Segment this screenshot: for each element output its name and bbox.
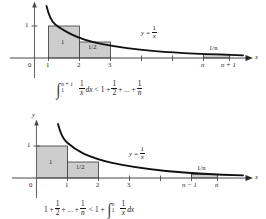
tick-label-origin-bottom: 0: [29, 182, 32, 189]
bar-label-1-n-bottom: 1/n: [197, 165, 205, 172]
integral-sign-bottom: ∫: [107, 204, 111, 216]
bar-label-1-top: 1: [61, 39, 64, 46]
tick-label-1-top: 1: [46, 62, 49, 69]
rhs-frac-den-top: 2: [111, 88, 117, 97]
x-axis-label-top: x: [255, 54, 258, 61]
equation-bottom: 1 +12+ ... +1n<1 +∫n11xdx: [44, 200, 134, 216]
bar-label-1-bottom: 1: [49, 159, 52, 166]
tick-label-origin-top: 0: [28, 62, 31, 69]
integral-lower-bottom: 1: [112, 207, 115, 213]
curve-label-top: y =1x: [141, 25, 158, 41]
rhs-last-den-top: n: [137, 88, 143, 97]
tick-label-n-plus-1-top: n + 1: [221, 62, 236, 69]
integrand-num-top: 1: [79, 80, 85, 88]
tick-label-1-bottom: 1: [65, 182, 68, 189]
relation-bottom: <: [89, 205, 93, 214]
curve-label-num-top: 1: [152, 25, 158, 32]
lhs-dots-bottom: + ... +: [61, 205, 79, 214]
y-axis-label-bottom: y: [32, 112, 35, 119]
tick-label-y1-bottom: 1: [27, 142, 30, 149]
relation-top: <: [95, 85, 99, 94]
tick-label-n-minus-1-bottom: n − 1: [182, 182, 197, 189]
tick-label-3-top: 3: [108, 62, 111, 69]
rhs-dots-top: + ... +: [118, 85, 136, 94]
bar-label-1-n-top: 1/n: [209, 45, 217, 52]
figure-panel-top: 0 1 2 3 n n + 1 1 x 1 1/2 1/n y =1x ∫n +…: [0, 0, 266, 106]
lhs-frac-num-bottom: 1: [55, 200, 61, 208]
curve-label-lhs-bottom: y =: [129, 150, 139, 158]
tick-label-2-bottom: 2: [96, 182, 99, 189]
equation-top: ∫n + 111xdx<1 +12+ ... +1n: [56, 80, 143, 96]
lhs-last-num-bottom: 1: [80, 200, 86, 208]
differential-bottom: dx: [127, 205, 134, 214]
bar-label-1-2-top: 1/2: [88, 44, 96, 51]
bar-label-1-2-bottom: 1/2: [76, 164, 84, 171]
integral-lower-top: 1: [61, 87, 73, 93]
tick-label-n-top: n: [201, 62, 204, 69]
curve-label-den-bottom: x: [140, 153, 146, 161]
y-axis-top: [32, 2, 38, 79]
x-axis-label-bottom: x: [255, 174, 258, 181]
tick-label-2-top: 2: [77, 62, 80, 69]
integral-sign-top: ∫: [57, 84, 61, 96]
lhs-frac-den-bottom: 2: [55, 208, 61, 217]
rhs-frac-num-top: 1: [111, 80, 117, 88]
curve-label-bottom: y =1x: [129, 146, 146, 162]
tick-label-3-bottom: 3: [127, 182, 130, 189]
integrand-den-bottom: x: [120, 208, 126, 217]
tick-label-y1-top: 1: [25, 22, 28, 29]
curve-label-num-bottom: 1: [140, 146, 146, 153]
curve-label-lhs-top: y =: [141, 29, 151, 37]
integrand-num-bottom: 1: [120, 200, 126, 208]
tick-label-n-bottom: n: [215, 182, 218, 189]
rhs-lead-bottom: 1 +: [95, 205, 105, 214]
lhs-first-bottom: 1 +: [44, 205, 54, 214]
lhs-last-den-bottom: n: [80, 208, 86, 217]
rhs-lead-top: 1 +: [101, 85, 111, 94]
figure-panel-bottom: y x 0 1 2 3 n − 1 n 1 1 1/2 1/n y =1x 1 …: [0, 106, 266, 219]
curve-label-den-top: x: [152, 32, 158, 40]
differential-top: dx: [86, 85, 93, 94]
rhs-last-num-top: 1: [137, 80, 143, 88]
integrand-den-top: x: [79, 88, 85, 97]
